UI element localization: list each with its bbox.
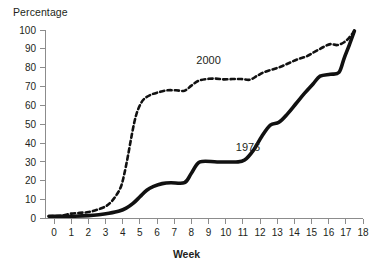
y-axis: 0102030405060708090100: [19, 25, 45, 225]
y-tick-label: 0: [30, 213, 36, 224]
x-tick-label: 14: [289, 227, 301, 238]
x-tick-label: 9: [206, 227, 212, 238]
y-tick-label: 40: [25, 138, 37, 149]
x-tick-label: 16: [323, 227, 335, 238]
x-axis-ticks: 0123456789101112131415161718: [51, 219, 369, 239]
y-tick-label: 50: [25, 119, 37, 130]
x-axis-title: Week: [0, 248, 373, 260]
y-tick-label: 100: [19, 25, 36, 36]
x-tick-label: 15: [306, 227, 318, 238]
series-annotation-labels: 20001976: [196, 54, 260, 153]
x-tick-label: 18: [357, 227, 369, 238]
y-tick-label: 90: [25, 43, 37, 54]
x-tick-label: 2: [86, 227, 92, 238]
series-label-1976: 1976: [236, 141, 260, 153]
x-tick-label: 10: [220, 227, 232, 238]
y-tick-label: 60: [25, 100, 37, 111]
x-tick-label: 3: [103, 227, 109, 238]
x-tick-label: 13: [272, 227, 284, 238]
x-tick-label: 0: [51, 227, 57, 238]
y-tick-label: 70: [25, 81, 37, 92]
x-tick-label: 4: [120, 227, 126, 238]
percentage-by-week-chart: Percentage 0102030405060708090100 012345…: [0, 0, 373, 269]
series-label-2000: 2000: [196, 54, 220, 66]
y-tick-label: 20: [25, 175, 37, 186]
x-tick-label: 5: [137, 227, 143, 238]
chart-plot-area: 0102030405060708090100 01234567891011121…: [0, 0, 373, 269]
x-tick-label: 12: [254, 227, 266, 238]
x-tick-label: 8: [189, 227, 195, 238]
y-tick-label: 10: [25, 194, 37, 205]
x-axis: 0123456789101112131415161718: [46, 219, 369, 239]
y-tick-label: 80: [25, 62, 37, 73]
x-tick-label: 6: [154, 227, 160, 238]
y-axis-ticks: 0102030405060708090100: [19, 25, 45, 225]
y-tick-label: 30: [25, 157, 37, 168]
x-tick-label: 7: [171, 227, 177, 238]
x-tick-label: 1: [68, 227, 74, 238]
x-tick-label: 11: [238, 227, 249, 238]
x-tick-label: 17: [340, 227, 352, 238]
